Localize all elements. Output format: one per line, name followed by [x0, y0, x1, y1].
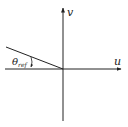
angle-arc-arrow	[31, 57, 32, 67]
theta-subscript: ref	[18, 61, 28, 69]
u-axis-label: u	[114, 55, 121, 68]
uv-axes-diagram: v u θref	[0, 0, 128, 127]
v-axis-label: v	[67, 6, 74, 19]
theta-ref-label: θref	[12, 56, 28, 69]
